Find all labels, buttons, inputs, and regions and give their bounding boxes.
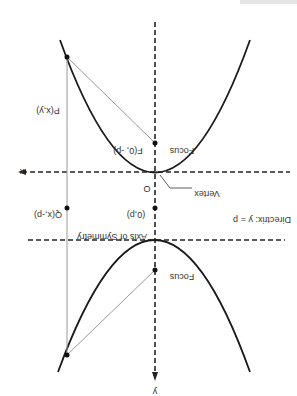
focus-lower-label: Focus bbox=[169, 272, 194, 282]
directrix-point-label: (0,p) bbox=[127, 210, 146, 220]
parabola-diagram: x y O Vertex Focus F(0, -p) Focus P(x,y)… bbox=[0, 0, 297, 396]
directrix-label: Directrix: y = p bbox=[233, 215, 291, 225]
x-axis-label: x bbox=[19, 167, 24, 177]
focus-coords-label: F(0, -p) bbox=[113, 146, 143, 156]
vertex-pointer bbox=[160, 175, 192, 188]
point-p bbox=[65, 55, 70, 60]
directrix-point bbox=[153, 206, 158, 211]
y-axis-label: y bbox=[152, 387, 157, 396]
vertex-label: Vertex bbox=[194, 189, 220, 199]
axis-symmetry-label: Axis of Symmetry bbox=[76, 232, 147, 242]
focus-distance-line-upper bbox=[67, 57, 155, 143]
y-axis-arrow-icon bbox=[152, 372, 158, 381]
point-q-label: Q(x,-p) bbox=[34, 210, 62, 220]
lower-parabola bbox=[58, 240, 250, 372]
focus-distance-line-lower bbox=[67, 270, 155, 355]
point-q bbox=[65, 206, 70, 211]
diagram-canvas: x y O Vertex Focus F(0, -p) Focus P(x,y)… bbox=[0, 0, 297, 396]
focus-point-lower bbox=[153, 268, 158, 273]
point-p-lower bbox=[65, 353, 70, 358]
focus-point-upper bbox=[153, 141, 158, 146]
focus-upper-label: Focus bbox=[169, 146, 194, 156]
point-p-label: P(x,y) bbox=[36, 106, 60, 116]
origin-label: O bbox=[143, 184, 150, 194]
